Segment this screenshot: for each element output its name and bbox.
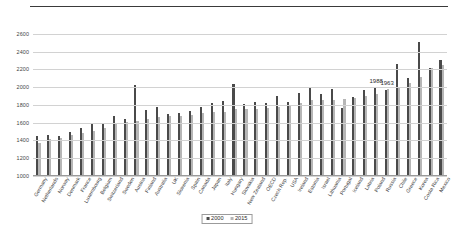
bar-2015 xyxy=(333,100,335,176)
legend-label-2015: 2015 xyxy=(235,216,247,222)
bar-group xyxy=(175,25,186,176)
bar-group xyxy=(360,25,371,176)
bar-2015 xyxy=(235,109,237,176)
bar-group xyxy=(436,25,447,176)
bar-2015 xyxy=(60,138,62,176)
bar-group xyxy=(229,25,240,176)
bar-group xyxy=(153,25,164,176)
bar-group xyxy=(371,25,382,176)
bar-2015 xyxy=(256,109,258,176)
bar-group xyxy=(382,25,393,176)
bar-series-container xyxy=(33,25,447,176)
gridline xyxy=(33,123,447,124)
bar-group xyxy=(218,25,229,176)
bar-group xyxy=(186,25,197,176)
bar-2015 xyxy=(224,112,226,176)
y-axis-tick-label: 2000 xyxy=(17,84,29,90)
data-label-annotation: 1963 xyxy=(380,80,393,86)
legend-item-2015: 2015 xyxy=(231,216,248,222)
bar-2015 xyxy=(136,121,138,177)
bar-2015 xyxy=(354,98,356,176)
bar-2015 xyxy=(126,122,128,176)
bar-2015 xyxy=(71,135,73,176)
bar-2015 xyxy=(420,77,422,176)
chart-figure: 1000120014001600180020002200240026001988… xyxy=(0,0,454,235)
gridline xyxy=(33,105,447,106)
x-axis-tick-label: UK xyxy=(170,176,179,185)
bar-2015 xyxy=(93,131,95,176)
y-axis-tick-label: 1600 xyxy=(17,120,29,126)
bar-2015 xyxy=(409,83,411,176)
y-axis-tick-label: 2200 xyxy=(17,66,29,72)
bar-2015 xyxy=(387,89,389,176)
bar-2015 xyxy=(343,99,345,176)
bar-group xyxy=(403,25,414,176)
bar-group xyxy=(338,25,349,176)
bar-2015 xyxy=(267,108,269,176)
bar-2015 xyxy=(191,115,193,176)
y-axis-tick-label: 1800 xyxy=(17,102,29,108)
bar-2015 xyxy=(104,128,106,176)
bar-group xyxy=(98,25,109,176)
bar-group xyxy=(33,25,44,176)
bar-group xyxy=(44,25,55,176)
bar-2015 xyxy=(180,116,182,176)
bar-2015 xyxy=(311,100,313,176)
bar-group xyxy=(425,25,436,176)
x-axis-tick-label: Japan xyxy=(210,176,222,191)
bar-group xyxy=(240,25,251,176)
gridline xyxy=(33,69,447,70)
bar-2015 xyxy=(365,96,367,176)
bar-group xyxy=(294,25,305,176)
bar-2015 xyxy=(376,94,378,176)
y-axis-tick-label: 1200 xyxy=(17,155,29,161)
bar-group xyxy=(109,25,120,176)
legend-swatch-2000-icon xyxy=(207,217,210,220)
y-axis-tick-label: 2400 xyxy=(17,49,29,55)
y-axis-tick-label: 1000 xyxy=(17,173,29,179)
bar-group xyxy=(77,25,88,176)
gridline xyxy=(33,158,447,159)
bar-group xyxy=(164,25,175,176)
bar-2015 xyxy=(158,117,160,176)
bar-group xyxy=(120,25,131,176)
bar-group xyxy=(414,25,425,176)
bar-2015 xyxy=(398,88,400,176)
bar-2015 xyxy=(147,119,149,176)
bar-group xyxy=(87,25,98,176)
bar-group xyxy=(66,25,77,176)
y-axis-tick-label: 2600 xyxy=(17,31,29,37)
bar-group xyxy=(327,25,338,176)
bar-group xyxy=(55,25,66,176)
bar-2015 xyxy=(115,124,117,176)
bar-2015 xyxy=(442,65,444,176)
bar-group xyxy=(316,25,327,176)
bar-group xyxy=(349,25,360,176)
gridline xyxy=(33,52,447,53)
bar-group xyxy=(131,25,142,176)
plot-area: 1000120014001600180020002200240026001988… xyxy=(33,25,447,176)
gridline xyxy=(33,140,447,141)
bar-group xyxy=(393,25,404,176)
bar-group xyxy=(284,25,295,176)
y-axis-tick-label: 1400 xyxy=(17,137,29,143)
top-divider-rule xyxy=(30,6,448,7)
bar-2015 xyxy=(169,116,171,176)
bar-group xyxy=(262,25,273,176)
gridline xyxy=(33,34,447,35)
bar-2015 xyxy=(322,100,324,176)
bar-group xyxy=(207,25,218,176)
gridline xyxy=(33,87,447,88)
bar-group xyxy=(251,25,262,176)
legend-swatch-2015-icon xyxy=(231,217,234,220)
bar-group xyxy=(196,25,207,176)
bar-group xyxy=(142,25,153,176)
legend-label-2000: 2000 xyxy=(211,216,223,222)
bar-group xyxy=(305,25,316,176)
bar-group xyxy=(273,25,284,176)
chart-legend: 2000 2015 xyxy=(202,214,253,224)
legend-item-2000: 2000 xyxy=(207,216,224,222)
bar-2015 xyxy=(38,143,40,176)
bar-2015 xyxy=(245,109,247,176)
